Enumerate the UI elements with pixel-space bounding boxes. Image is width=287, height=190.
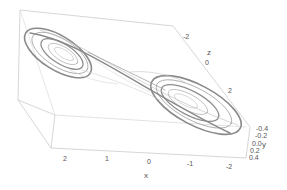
z-tick: 2: [228, 87, 232, 94]
y-tick: 0.2: [250, 147, 260, 154]
x-tick: -2: [226, 163, 232, 170]
attractor-3d-plot: 2 1 0 -1 -2 x -0.4 -0.2 0.0 0.2 0.4 y -2…: [0, 0, 287, 190]
y-tick: 0.0: [252, 140, 262, 147]
z-tick: -2: [183, 33, 189, 40]
x-tick: 1: [105, 155, 109, 162]
x-tick: 0: [147, 158, 151, 165]
z-tick: 0: [205, 59, 209, 66]
z-axis-label: z: [207, 48, 211, 57]
x-axis-label: x: [144, 171, 148, 180]
y-axis-label: y: [262, 140, 266, 149]
attractor-curve: [17, 18, 250, 146]
y-axis: -0.4 -0.2 0.0 0.2 0.4 y: [249, 125, 268, 161]
y-tick: 0.4: [249, 154, 259, 161]
x-tick: 2: [63, 155, 67, 162]
x-axis: 2 1 0 -1 -2 x: [63, 155, 232, 180]
y-tick: -0.4: [256, 125, 268, 132]
y-tick: -0.2: [255, 132, 267, 139]
x-tick: -1: [187, 160, 193, 167]
